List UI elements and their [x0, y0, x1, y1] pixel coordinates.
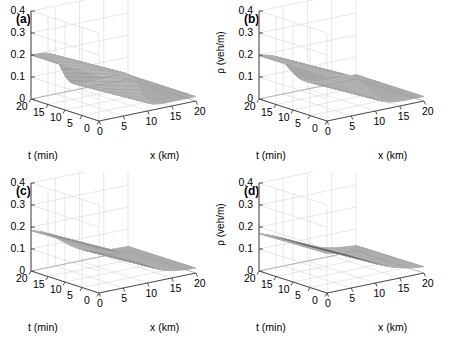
x-axis-tick-label: 0 — [97, 297, 103, 309]
axes-3d — [228, 0, 455, 171]
t-axis-tick-label: 0 — [84, 294, 90, 306]
plot-area-a — [0, 0, 227, 171]
t-axis-tick-label: 15 — [261, 106, 273, 118]
x-axis-tick-label: 15 — [398, 282, 410, 294]
z-axis-tick-label: 0.4 — [0, 176, 25, 188]
z-axis-tick-label: 0.4 — [0, 4, 25, 16]
plot-area-c — [0, 172, 227, 343]
x-axis-tick-label: 10 — [374, 287, 386, 299]
x-axis-tick-label: 0 — [325, 297, 331, 309]
t-axis-title: t (min) — [28, 149, 58, 161]
x-axis-tick-label: 0 — [325, 125, 331, 137]
panel-d: (d) 0.40.30.20.10ρ (veh/m)20151050051015… — [228, 172, 455, 343]
x-axis-tick-label: 0 — [97, 125, 103, 137]
x-axis-tick-label: 5 — [121, 292, 127, 304]
x-axis-tick-label: 10 — [146, 115, 158, 127]
t-axis-tick-label: 0 — [312, 122, 318, 134]
z-axis-tick-label: 0.4 — [227, 176, 253, 188]
z-axis-tick-label: 0.4 — [227, 4, 253, 16]
z-axis-tick-label: 0.2 — [227, 220, 253, 232]
t-axis-tick-label: 20 — [16, 100, 28, 112]
t-axis-title: t (min) — [28, 321, 58, 333]
t-axis-tick-label: 20 — [244, 100, 256, 112]
t-axis-tick-label: 15 — [261, 278, 273, 290]
x-axis-tick-label: 20 — [422, 105, 434, 117]
t-axis-tick-label: 10 — [50, 283, 62, 295]
panel-a: (a) 0.40.30.20.10ρ (veh/m)20151050051015… — [0, 0, 227, 171]
z-axis-tick-label: 0.2 — [0, 220, 25, 232]
x-axis-tick-label: 5 — [121, 120, 127, 132]
t-axis-tick-label: 10 — [278, 283, 290, 295]
z-axis-tick-label: 0.1 — [0, 242, 25, 254]
z-axis-tick-label: 0.2 — [227, 48, 253, 60]
x-axis-title: x (km) — [378, 321, 407, 333]
x-axis-tick-label: 20 — [194, 105, 206, 117]
z-axis-tick-label: 0.3 — [0, 26, 25, 38]
x-axis-tick-label: 5 — [349, 120, 355, 132]
t-axis-tick-label: 0 — [84, 122, 90, 134]
t-axis-tick-label: 5 — [67, 289, 73, 301]
x-axis-title: x (km) — [150, 321, 179, 333]
x-axis-title: x (km) — [378, 149, 407, 161]
z-axis-tick-label: 0.3 — [227, 26, 253, 38]
x-axis-tick-label: 15 — [170, 110, 182, 122]
figure-root: (a) 0.40.30.20.10ρ (veh/m)20151050051015… — [0, 0, 455, 343]
panel-b: (b) 0.40.30.20.10ρ (veh/m)20151050051015… — [228, 0, 455, 171]
x-axis-tick-label: 20 — [422, 277, 434, 289]
z-axis-tick-label: 0.2 — [0, 48, 25, 60]
t-axis-tick-label: 10 — [50, 111, 62, 123]
gridlines — [259, 172, 424, 293]
plot-area-b — [228, 0, 455, 171]
t-axis-tick-label: 5 — [295, 289, 301, 301]
t-axis-tick-label: 15 — [33, 278, 45, 290]
gridlines — [31, 172, 196, 293]
t-axis-tick-label: 15 — [33, 106, 45, 118]
x-axis-tick-label: 5 — [349, 292, 355, 304]
t-axis-title: t (min) — [256, 321, 286, 333]
t-axis-title: t (min) — [256, 149, 286, 161]
axes-3d — [228, 172, 455, 343]
t-axis-tick-label: 10 — [278, 111, 290, 123]
x-axis-title: x (km) — [150, 149, 179, 161]
x-axis-tick-label: 15 — [170, 282, 182, 294]
axes-3d — [0, 172, 227, 343]
t-axis-tick-label: 5 — [67, 117, 73, 129]
z-axis-tick-label: 0.3 — [227, 198, 253, 210]
x-axis-tick-label: 15 — [398, 110, 410, 122]
plot-area-d — [228, 172, 455, 343]
z-axis-title: ρ (veh/m) — [215, 188, 226, 262]
x-axis-tick-label: 10 — [374, 115, 386, 127]
z-axis-tick-label: 0.1 — [0, 70, 25, 82]
axes-3d — [0, 0, 227, 171]
z-axis-tick-label: 0.1 — [227, 242, 253, 254]
x-axis-tick-label: 20 — [194, 277, 206, 289]
z-axis-tick-label: 0.1 — [227, 70, 253, 82]
z-axis-title: ρ (veh/m) — [215, 16, 226, 90]
t-axis-tick-label: 0 — [312, 294, 318, 306]
z-axis-tick-label: 0.3 — [0, 198, 25, 210]
t-axis-tick-label: 5 — [295, 117, 301, 129]
t-axis-tick-label: 20 — [244, 272, 256, 284]
x-axis-tick-label: 10 — [146, 287, 158, 299]
panel-c: (c) 0.40.30.20.10ρ (veh/m)20151050051015… — [0, 172, 227, 343]
t-axis-tick-label: 20 — [16, 272, 28, 284]
